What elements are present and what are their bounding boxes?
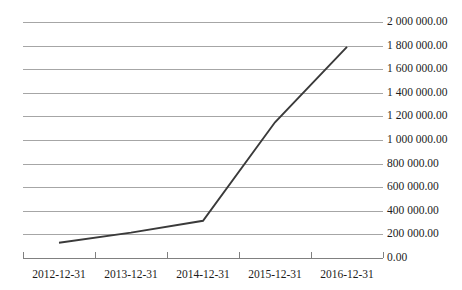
y-axis-tick-label: 200 000.00 bbox=[387, 227, 439, 239]
x-axis-tick bbox=[23, 252, 24, 258]
y-axis-tick-label: 1 600 000.00 bbox=[387, 62, 447, 74]
x-axis-labels: 2012-12-31 2013-12-31 2014-12-31 2015-12… bbox=[23, 264, 383, 286]
y-axis-tick-label: 0.00 bbox=[387, 251, 407, 263]
y-axis-tick-label: 2 000 000.00 bbox=[387, 15, 447, 27]
y-axis-tick-label: 1 200 000.00 bbox=[387, 109, 447, 121]
x-axis-tick-label: 2014-12-31 bbox=[167, 264, 239, 286]
series-line-revenue bbox=[59, 47, 347, 243]
x-axis-line bbox=[23, 258, 383, 259]
y-axis-tick-label: 1 800 000.00 bbox=[387, 39, 447, 51]
x-axis-tick bbox=[95, 252, 96, 258]
x-axis-tick-label: 2012-12-31 bbox=[23, 264, 95, 286]
x-axis-tick-label: 2015-12-31 bbox=[239, 264, 311, 286]
series-line-group bbox=[23, 16, 383, 264]
y-axis-tick-label: 1 000 000.00 bbox=[387, 133, 447, 145]
x-axis-tick bbox=[167, 252, 168, 258]
x-axis-tick bbox=[311, 252, 312, 258]
y-axis-tick-label: 600 000.00 bbox=[387, 180, 439, 192]
y-axis-tick-label: 800 000.00 bbox=[387, 157, 439, 169]
x-axis-tick-label: 2013-12-31 bbox=[95, 264, 167, 286]
plot-area bbox=[23, 16, 383, 264]
y-axis-tick-label: 400 000.00 bbox=[387, 204, 439, 216]
x-axis-tick bbox=[383, 252, 384, 258]
x-axis-tick-label: 2016-12-31 bbox=[311, 264, 383, 286]
y-axis-labels: 2 000 000.001 800 000.001 600 000.001 40… bbox=[387, 0, 462, 290]
x-axis-tick bbox=[239, 252, 240, 258]
y-axis-tick-label: 1 400 000.00 bbox=[387, 86, 447, 98]
line-chart: 2 000 000.001 800 000.001 600 000.001 40… bbox=[0, 0, 462, 290]
